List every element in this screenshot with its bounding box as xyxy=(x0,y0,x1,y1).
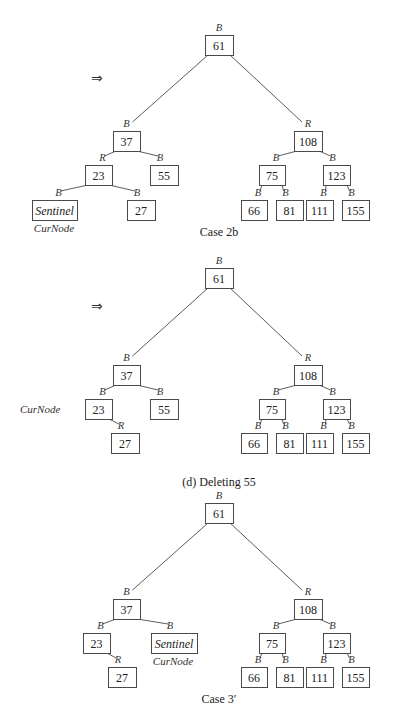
node-color-label: B xyxy=(167,620,174,631)
node-value: 61 xyxy=(213,272,225,286)
node-value: 37 xyxy=(121,135,133,149)
curnode-label: CurNode xyxy=(20,403,60,415)
edge-n61-n37 xyxy=(133,55,209,122)
node-value: 66 xyxy=(248,437,260,451)
node-color-label: B xyxy=(255,654,262,665)
node-color-label: R xyxy=(117,420,125,431)
panel-case-2b: 61B37B108R23R55B75B123BSentinelB27B66B81… xyxy=(33,22,370,239)
tree-node-n108: 108R xyxy=(295,352,323,386)
node-value: 66 xyxy=(248,204,260,218)
node-value: 108 xyxy=(299,135,317,149)
node-color-label: R xyxy=(304,118,312,129)
node-color-label: R xyxy=(304,586,312,597)
node-color-label: B xyxy=(255,420,262,431)
edge-n61-n108 xyxy=(230,523,302,590)
tree-node-n37: 37B xyxy=(114,586,141,620)
tree-node-n66: 66B xyxy=(242,654,268,688)
tree-node-n37: 37B xyxy=(114,118,141,152)
tree-node-n155: 155B xyxy=(343,420,370,454)
node-value: 55 xyxy=(158,169,170,183)
tree-node-n111: 111B xyxy=(307,187,334,221)
node-color-label: B xyxy=(123,118,130,129)
node-value: 27 xyxy=(135,204,147,218)
tree-node-n81: 81B xyxy=(277,420,304,454)
node-color-label: B xyxy=(348,420,355,431)
tree-node-n108: 108R xyxy=(295,118,323,152)
tree-node-n108: 108R xyxy=(295,586,323,620)
tree-node-n61: 61B xyxy=(206,22,234,56)
node-color-label: B xyxy=(320,420,327,431)
tree-node-n55: 55B xyxy=(151,386,179,420)
node-color-label: B xyxy=(134,187,141,198)
node-value: 23 xyxy=(91,637,103,651)
node-color-label: B xyxy=(320,187,327,198)
node-value: 123 xyxy=(328,169,346,183)
node-value: 37 xyxy=(121,369,133,383)
node-color-label: B xyxy=(216,255,223,266)
node-color-label: R xyxy=(98,152,106,163)
node-color-label: B xyxy=(255,187,262,198)
node-color-label: B xyxy=(99,386,106,397)
node-value: 23 xyxy=(93,169,105,183)
node-value: Sentinel xyxy=(35,204,74,218)
node-color-label: B xyxy=(273,152,280,163)
node-color-label: B xyxy=(123,352,130,363)
curnode-label: CurNode xyxy=(153,655,193,667)
node-color-label: B xyxy=(282,654,289,665)
tree-node-n66: 66B xyxy=(242,187,268,221)
tree-node-n37: 37B xyxy=(114,352,141,386)
curnode-label: CurNode xyxy=(34,222,74,234)
node-color-label: B xyxy=(329,620,336,631)
edge-n61-n108 xyxy=(230,288,302,356)
red-black-tree-deletion-figure: 61B37B108R23R55B75B123BSentinelB27B66B81… xyxy=(0,0,393,717)
node-value: Sentinel xyxy=(155,637,194,651)
edge-n23-sentinel xyxy=(61,185,89,191)
node-value: 61 xyxy=(213,507,225,521)
tree-node-n27: 27B xyxy=(128,187,156,221)
node-color-label: B xyxy=(55,187,62,198)
tree-node-n123: 123B xyxy=(324,620,351,654)
node-color-label: B xyxy=(348,654,355,665)
node-value: 61 xyxy=(213,39,225,53)
panel-after-case-2b: 61B37B108R23B55B75B123B27R66B81B111B155B… xyxy=(20,255,370,489)
tree-node-n27: 27R xyxy=(112,420,140,454)
tree-node-n75: 75B xyxy=(260,152,286,186)
tree-node-n111: 111B xyxy=(307,654,334,688)
node-value: 108 xyxy=(299,603,317,617)
node-value: 55 xyxy=(158,403,170,417)
node-value: 75 xyxy=(266,169,278,183)
tree-node-n111: 111B xyxy=(307,420,334,454)
node-color-label: B xyxy=(348,187,355,198)
node-color-label: B xyxy=(329,152,336,163)
tree-node-n23: 23B xyxy=(84,620,111,654)
tree-node-n61: 61B xyxy=(206,255,234,289)
tree-node-n155: 155B xyxy=(343,187,370,221)
tree-node-n27: 27R xyxy=(109,654,137,688)
node-value: 108 xyxy=(299,369,317,383)
tree-node-n81: 81B xyxy=(277,187,304,221)
node-value: 81 xyxy=(284,437,296,451)
tree-node-n61: 61B xyxy=(206,490,234,524)
node-value: 155 xyxy=(347,671,365,685)
node-value: 81 xyxy=(284,671,296,685)
node-color-label: B xyxy=(97,620,104,631)
tree-node-n55: 55B xyxy=(151,152,179,186)
node-value: 111 xyxy=(311,671,328,685)
tree-node-n155: 155B xyxy=(343,654,370,688)
panel-case-3-prime: 61B37B108R23BSentinelB75B123B27R66B81B11… xyxy=(84,490,370,706)
node-color-label: B xyxy=(273,386,280,397)
tree-node-n75: 75B xyxy=(260,620,286,654)
tree-node-n23: 23R xyxy=(86,152,113,186)
node-value: 123 xyxy=(328,403,346,417)
node-value: 27 xyxy=(119,437,131,451)
node-value: 155 xyxy=(347,437,365,451)
node-value: 37 xyxy=(121,603,133,617)
tree-node-n81: 81B xyxy=(277,654,304,688)
node-color-label: B xyxy=(123,586,130,597)
node-value: 123 xyxy=(328,637,346,651)
node-value: 66 xyxy=(248,671,260,685)
panel-caption: Case 3′ xyxy=(202,692,237,706)
node-value: 111 xyxy=(311,204,328,218)
node-color-label: R xyxy=(114,654,122,665)
node-color-label: B xyxy=(216,490,223,501)
